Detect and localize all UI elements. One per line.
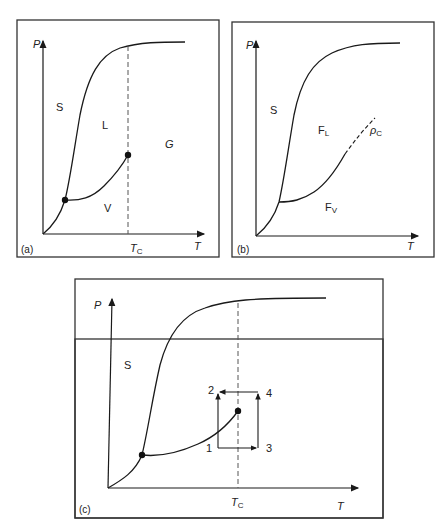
critical-point xyxy=(125,152,131,158)
state-2-label: 2 xyxy=(208,384,214,396)
triple-point xyxy=(139,452,145,458)
solid-boundary-curve xyxy=(108,298,326,488)
vaporization-curve xyxy=(142,411,238,456)
tc-label: TC xyxy=(231,496,244,510)
p-axis-label: P xyxy=(94,299,102,311)
region-solid: S xyxy=(56,101,63,113)
solid-boundary-curve xyxy=(43,42,185,234)
panel-c-border xyxy=(75,339,383,518)
panel-c-outer-border xyxy=(75,279,383,518)
p-axis-label: P xyxy=(246,39,254,51)
region-liquid: L xyxy=(102,119,108,131)
region-fluid-vapor: FV xyxy=(325,201,338,215)
phase-diagram-figure: P T S L V G TC (a) P T S FL FV ρC (b) xyxy=(0,0,447,529)
panel-c-caption: (c) xyxy=(79,504,91,515)
tc-label: TC xyxy=(130,242,143,256)
p-axis xyxy=(108,299,112,488)
p-axis-label: P xyxy=(33,38,41,50)
critical-point xyxy=(235,408,241,414)
panel-a: P T S L V G TC (a) xyxy=(17,20,219,257)
t-axis-label: T xyxy=(407,240,415,252)
panel-a-caption: (a) xyxy=(21,244,33,255)
vaporization-curve xyxy=(65,155,128,200)
panel-c: P T S 1 2 3 4 TC (c) xyxy=(75,279,383,518)
state-3-label: 3 xyxy=(266,442,272,454)
panel-b: P T S FL FV ρC (b) xyxy=(232,22,434,257)
triple-point xyxy=(62,197,68,203)
t-axis-label: T xyxy=(194,240,202,252)
state-1-label: 1 xyxy=(206,442,212,454)
region-gas: G xyxy=(165,138,174,150)
t-axis-label: T xyxy=(337,500,345,512)
region-solid: S xyxy=(270,104,277,116)
panel-b-border xyxy=(232,22,434,257)
region-fluid-liquid: FL xyxy=(318,124,330,138)
region-vapor: V xyxy=(104,202,112,214)
critical-density-label: ρC xyxy=(369,124,382,138)
panel-b-caption: (b) xyxy=(237,244,249,255)
state-4-label: 4 xyxy=(266,387,272,399)
panel-a-border xyxy=(17,20,219,257)
vaporization-curve xyxy=(279,154,345,202)
region-solid: S xyxy=(124,359,131,371)
